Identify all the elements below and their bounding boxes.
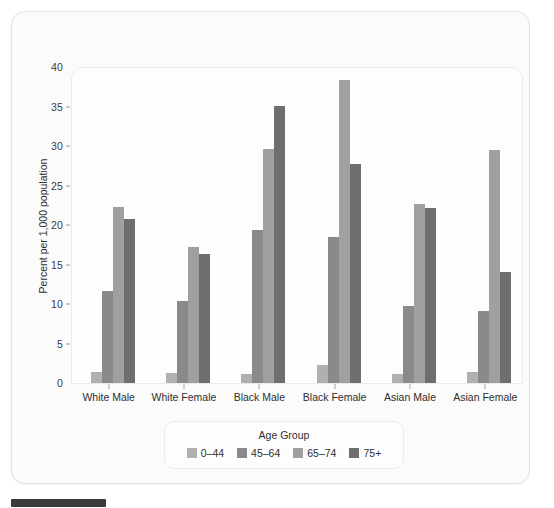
y-tick-mark xyxy=(66,106,70,107)
y-axis-tick: 30 xyxy=(51,140,63,152)
bar xyxy=(263,149,274,383)
bar xyxy=(425,208,436,383)
y-tick-mark xyxy=(66,343,70,344)
y-tick-mark xyxy=(66,225,70,226)
legend-swatch xyxy=(237,448,247,458)
y-axis-tick: 10 xyxy=(51,298,63,310)
y-axis-tick: 35 xyxy=(51,101,63,113)
y-axis-tick: 20 xyxy=(51,219,63,231)
x-axis-label: Black Male xyxy=(234,391,285,403)
x-axis-label: White Female xyxy=(152,391,217,403)
legend: Age Group 0–4445–6465–7475+ xyxy=(164,421,404,469)
x-axis-label: Black Female xyxy=(303,391,367,403)
legend-item[interactable]: 75+ xyxy=(349,447,381,459)
legend-item[interactable]: 0–44 xyxy=(187,447,224,459)
bar xyxy=(392,374,403,383)
bar xyxy=(339,80,350,383)
bar xyxy=(403,306,414,383)
bar xyxy=(478,311,489,383)
x-axis-tick xyxy=(410,384,411,389)
y-axis-tick: 25 xyxy=(51,180,63,192)
legend-label: 65–74 xyxy=(307,447,336,459)
x-axis-label: Asian Female xyxy=(453,391,517,403)
x-axis-label: White Male xyxy=(82,391,135,403)
bar xyxy=(241,374,252,383)
legend-label: 45–64 xyxy=(251,447,280,459)
y-axis: Percent per 1,000 population 40353025201… xyxy=(12,60,71,390)
bar xyxy=(113,207,124,383)
bar xyxy=(177,301,188,383)
y-tick-mark xyxy=(66,146,70,147)
bar xyxy=(91,372,102,383)
bar xyxy=(317,365,328,383)
bars-layer xyxy=(72,68,522,383)
x-axis-tick xyxy=(184,384,185,389)
bar-group xyxy=(298,68,373,383)
bar xyxy=(489,150,500,383)
legend-title: Age Group xyxy=(165,429,403,441)
bar-group xyxy=(72,68,147,383)
legend-label: 0–44 xyxy=(201,447,224,459)
x-axis-tick xyxy=(259,384,260,389)
y-axis-tick: 5 xyxy=(57,338,63,350)
legend-item[interactable]: 65–74 xyxy=(293,447,336,459)
bar xyxy=(274,106,285,383)
y-axis-tick: 40 xyxy=(51,61,63,73)
bar xyxy=(124,219,135,383)
plot-panel xyxy=(71,67,523,384)
y-axis-tick: 15 xyxy=(51,259,63,271)
legend-swatch xyxy=(187,448,197,458)
bar xyxy=(188,247,199,383)
y-tick-mark xyxy=(66,264,70,265)
bar-group xyxy=(373,68,448,383)
bar xyxy=(467,372,478,383)
bar-group xyxy=(449,68,522,383)
bar xyxy=(500,272,511,383)
chart-card: Percent per 1,000 population 40353025201… xyxy=(11,11,530,484)
y-tick-mark xyxy=(66,185,70,186)
y-tick-mark xyxy=(66,304,70,305)
bar xyxy=(166,373,177,383)
legend-swatch xyxy=(293,448,303,458)
bottom-strip xyxy=(11,499,106,507)
bar xyxy=(414,204,425,383)
x-axis-tick xyxy=(108,384,109,389)
bar-group xyxy=(223,68,298,383)
x-axis-label: Asian Male xyxy=(384,391,436,403)
legend-items: 0–4445–6465–7475+ xyxy=(165,447,403,459)
x-axis-tick xyxy=(485,384,486,389)
legend-swatch xyxy=(349,448,359,458)
y-axis-tick: 0 xyxy=(57,377,63,389)
legend-label: 75+ xyxy=(363,447,381,459)
bar xyxy=(102,291,113,383)
bar-group xyxy=(147,68,222,383)
bar xyxy=(350,164,361,383)
legend-item[interactable]: 45–64 xyxy=(237,447,280,459)
y-axis-title: Percent per 1,000 population xyxy=(37,101,49,351)
x-axis-tick xyxy=(334,384,335,389)
bar xyxy=(252,230,263,383)
bar xyxy=(199,254,210,383)
x-axis: White MaleWhite FemaleBlack MaleBlack Fe… xyxy=(71,384,523,410)
bar xyxy=(328,237,339,383)
